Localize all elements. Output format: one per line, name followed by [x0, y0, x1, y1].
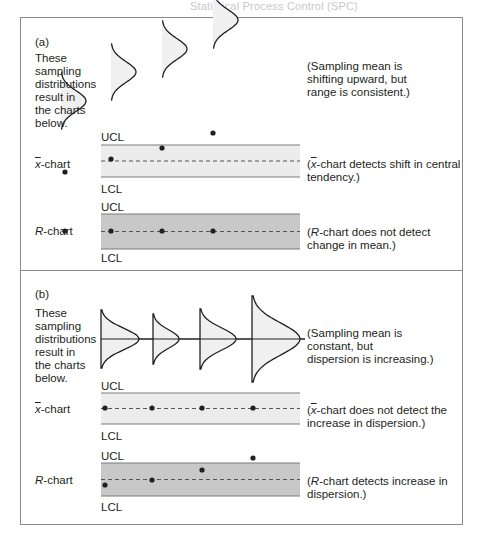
panel-a-r-ucl-label: UCL: [101, 201, 124, 214]
panel-a-xbar-data-point-2: [108, 156, 113, 161]
panel-b-xbar-data-point-4: [250, 405, 255, 410]
panel-a-r-data-point-2: [108, 228, 113, 233]
panel-b-xbar-data-point-3: [199, 405, 204, 410]
panel-b-label: (b): [35, 288, 49, 301]
panel-a-xbar-chart-label: x-chart: [35, 158, 70, 171]
panel-b-r-ucl-label: UCL: [101, 450, 124, 463]
panel-a-r-data-point-3: [159, 228, 164, 233]
panel-a-r-note: (R-chart does not detectchange in mean.): [307, 226, 478, 252]
panel-b-xbar-ucl-label: UCL: [101, 380, 124, 393]
panel-b-description: These sampling distributions result in t…: [35, 307, 105, 385]
panel-a-r-lcl-label: LCL: [101, 252, 122, 265]
panel-b-r-lcl-label: LCL: [101, 501, 122, 514]
panel-a-xbar-data-point-4: [210, 130, 215, 135]
panel-a-r-chart-label: R-chart: [35, 225, 73, 238]
panel-b-xbar-data-point-1: [102, 405, 107, 410]
panel-b-distribution-note: (Sampling mean is constant, but dispersi…: [307, 327, 477, 366]
panel-a-xbar-ucl-label: UCL: [101, 131, 124, 144]
panel-b-xbar-note: (x-chart does not detect theincrease in …: [307, 404, 477, 430]
panel-b-r-chart-label: R-chart: [35, 474, 73, 487]
panel-b-xbar-lcl-label: LCL: [101, 430, 122, 443]
panel-a-r-data-point-4: [210, 228, 215, 233]
panel-b-r-data-point-3: [199, 467, 204, 472]
panel-b-r-note: (R-chart detects increase indispersion.): [307, 475, 478, 501]
panel-a-xbar-data-point-3: [159, 145, 164, 150]
panel-b-r-data-point-1: [102, 482, 107, 487]
panel-a-distribution-note: (Sampling mean is shifting upward, but r…: [307, 60, 478, 99]
xbar-chart-suffix: -chart: [41, 158, 70, 170]
panel-a-xbar-note: (x-chart detects shift in centraltendenc…: [307, 158, 478, 184]
panel-b-xbar-chart-label: x-chart: [35, 403, 70, 416]
panel-b-xbar-data-point-2: [149, 405, 154, 410]
panel-a-description: These sampling distributions result in t…: [35, 52, 105, 130]
panel-b-r-data-point-4: [250, 455, 255, 460]
panel-a-label: (a): [35, 36, 49, 49]
panel-a-xbar-lcl-label: LCL: [101, 183, 122, 196]
panel-b-r-data-point-2: [149, 477, 154, 482]
